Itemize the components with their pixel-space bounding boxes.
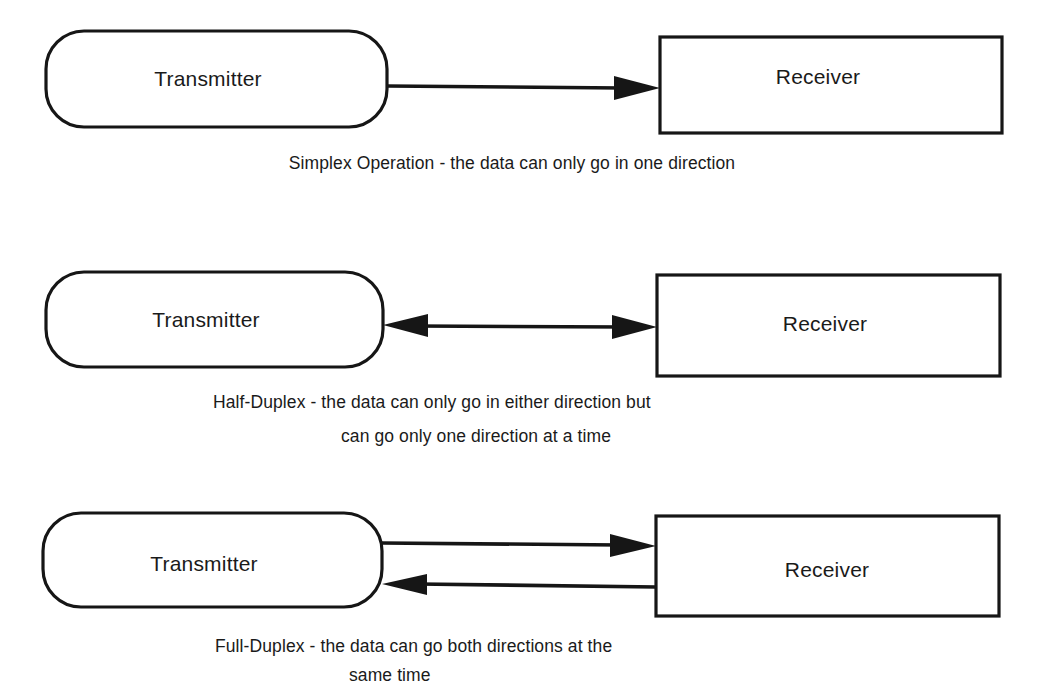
full-duplex-arrow-left-icon [382, 574, 656, 595]
half-duplex-transmitter-node: Transmitter [46, 272, 383, 367]
half-duplex-caption-line-1: Half-Duplex - the data can only go in ei… [213, 392, 651, 412]
full-duplex-diagram: Transmitter Receiver Full-Duplex - the d… [43, 513, 999, 684]
transmitter-label: Transmitter [150, 552, 258, 575]
transmitter-label: Transmitter [154, 67, 262, 90]
receiver-label: Receiver [785, 558, 869, 581]
transmitter-label: Transmitter [152, 308, 260, 331]
receiver-label: Receiver [776, 65, 860, 88]
simplex-transmitter-node: Transmitter [46, 31, 387, 127]
full-duplex-caption-line-1: Full-Duplex - the data can go both direc… [215, 636, 612, 656]
half-duplex-diagram: Transmitter Receiver Half-Duplex - the d… [46, 272, 1000, 446]
simplex-caption: Simplex Operation - the data can only go… [289, 153, 735, 173]
communication-modes-diagram: Transmitter Receiver Simplex Operation -… [0, 0, 1052, 684]
simplex-arrow-right-icon [387, 76, 660, 100]
half-duplex-caption-line-2: can go only one direction at a time [341, 426, 611, 446]
full-duplex-caption-line-2: same time [349, 665, 431, 684]
full-duplex-receiver-node: Receiver [656, 516, 999, 616]
simplex-receiver-node: Receiver [660, 37, 1002, 133]
half-duplex-receiver-node: Receiver [657, 275, 1000, 376]
half-duplex-double-arrow-icon [383, 314, 657, 339]
receiver-label: Receiver [783, 312, 867, 335]
full-duplex-arrow-right-icon [382, 534, 656, 557]
simplex-diagram: Transmitter Receiver Simplex Operation -… [46, 31, 1002, 173]
full-duplex-transmitter-node: Transmitter [43, 513, 382, 607]
